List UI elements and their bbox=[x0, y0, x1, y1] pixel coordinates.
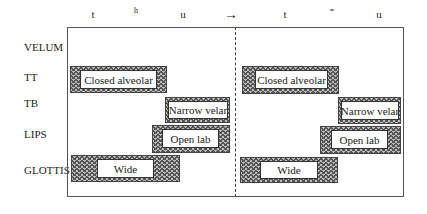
gesture-label-left-tb: Narrow velar bbox=[168, 101, 228, 119]
tier-label-tt: TT bbox=[24, 71, 37, 83]
segment-h-left: h bbox=[134, 6, 138, 15]
tier-label-tb: TB bbox=[24, 97, 38, 109]
transformation-arrow-icon: → bbox=[224, 7, 238, 23]
gesture-label-left-tt: Closed alveolar bbox=[80, 70, 157, 89]
gesture-label-right-tb: Narrow velar bbox=[341, 101, 399, 120]
gesture-label-left-lips: Open lab bbox=[162, 129, 219, 148]
tier-label-glottis: GLOTTIS bbox=[24, 164, 70, 176]
gesture-label-left-glottis: Wide bbox=[97, 159, 154, 178]
segment-equals-right: = bbox=[330, 6, 335, 15]
segment-t-left: t bbox=[91, 8, 94, 20]
tier-label-lips: LIPS bbox=[24, 128, 47, 140]
segment-u-right: u bbox=[376, 8, 382, 20]
gesture-label-right-tt: Closed alveolar bbox=[255, 70, 328, 89]
tier-label-velum: VELUM bbox=[24, 41, 63, 53]
segment-u-left: u bbox=[180, 8, 186, 20]
gesture-label-right-glottis: Wide bbox=[260, 161, 318, 179]
gesture-label-right-lips: Open lab bbox=[331, 130, 388, 149]
panel-divider-dashed bbox=[235, 27, 236, 197]
segment-t-right: t bbox=[283, 8, 286, 20]
